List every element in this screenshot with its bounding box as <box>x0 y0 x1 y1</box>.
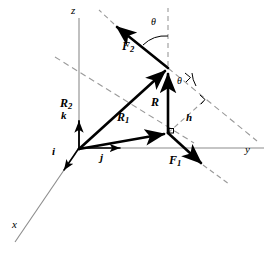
dashed-f2-extension <box>99 10 114 24</box>
vector-label-R1-base: R <box>117 110 125 124</box>
moment-arm-label-h: h <box>186 112 192 123</box>
angle-label-theta-lower: θ <box>177 76 182 86</box>
vector-label-R2-base: R <box>60 96 68 110</box>
diagram-canvas <box>0 0 269 254</box>
basis-label-j: j <box>100 152 103 163</box>
vector-label-F2-base: F <box>122 39 130 53</box>
vector-label-R1: R1 <box>117 111 129 125</box>
dashed-f1-extension <box>203 165 229 184</box>
right-angle-marks <box>169 73 205 133</box>
basis-vector-i <box>64 148 79 170</box>
vector-label-F1-base: F <box>169 153 177 167</box>
axis-lines <box>15 18 264 242</box>
theta-lower-arc <box>192 73 196 86</box>
vector-label-R: R <box>151 96 159 108</box>
vector-label-R-base: R <box>151 95 159 109</box>
angle-arcs <box>143 36 196 86</box>
vector-diagram-figure: z y x i j k R1 R2 R F1 F2 θ θ h <box>0 0 269 254</box>
vector-label-F2: F2 <box>122 40 134 54</box>
axis-label-x: x <box>12 219 17 230</box>
theta-top-arc <box>143 36 168 45</box>
angle-label-theta-top: θ <box>151 17 156 27</box>
vector-label-F1: F1 <box>169 154 181 168</box>
vector-arrows <box>79 27 201 163</box>
vector-label-R1-subscript: 1 <box>125 115 129 125</box>
vector-label-F2-subscript: 2 <box>130 44 134 54</box>
basis-label-i: i <box>52 146 55 157</box>
axis-label-y: y <box>245 144 250 155</box>
axis-label-z: z <box>71 5 75 16</box>
basis-label-k: k <box>61 110 67 121</box>
right-angle-upper-tick <box>185 73 191 82</box>
vector-label-R2: R2 <box>60 97 72 111</box>
vector-label-F1-subscript: 1 <box>177 158 181 168</box>
vector-label-R2-subscript: 2 <box>68 101 72 111</box>
